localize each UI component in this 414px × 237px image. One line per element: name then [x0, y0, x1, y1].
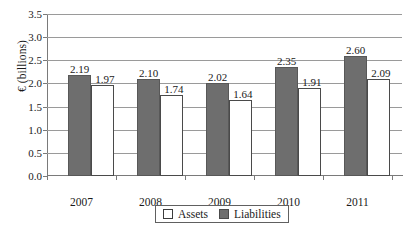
- bar-liabilities-2011[interactable]: 2.60: [344, 56, 367, 176]
- bar-liabilities-2009[interactable]: 2.02: [206, 83, 229, 177]
- bar-label: 1.64: [233, 89, 252, 100]
- bar-label: 2.19: [70, 64, 89, 75]
- bar-label: 2.09: [371, 68, 390, 79]
- y-tick-label: 2.0: [28, 77, 42, 89]
- bar-assets-2009[interactable]: 1.64: [229, 100, 252, 176]
- bar-assets-2011[interactable]: 2.09: [367, 79, 390, 176]
- bar-label: 2.35: [277, 56, 296, 67]
- legend-item-liabilities[interactable]: Liabilities: [219, 208, 281, 220]
- x-tick-label-2007: 2007: [70, 196, 93, 208]
- bar-label: 1.97: [95, 74, 114, 85]
- x-tick-mark: [392, 176, 393, 180]
- y-tick-label: 0.0: [28, 170, 42, 182]
- y-tick-label: 1.0: [28, 123, 42, 135]
- x-tick-mark: [323, 176, 324, 180]
- bar-label: 1.91: [302, 77, 321, 88]
- x-tick-mark: [185, 176, 186, 180]
- gray-square-icon: [219, 209, 229, 219]
- bar-groups: 2.19 1.97 2.10 1.74 2.02 1.64: [47, 14, 402, 176]
- plot-area: 3.5 3.0 2.5 2.0 1.5 1.0 0.5 0.0: [47, 14, 402, 176]
- y-tick-label: 3.5: [28, 8, 42, 20]
- legend-label-liabilities: Liabilities: [234, 208, 281, 220]
- bar-assets-2007[interactable]: 1.97: [91, 85, 114, 176]
- bar-assets-2008[interactable]: 1.74: [160, 95, 183, 176]
- chart-legend: Assets Liabilities: [155, 205, 289, 223]
- x-tick-label-2011: 2011: [346, 196, 369, 208]
- bar-assets-2010[interactable]: 1.91: [298, 88, 321, 176]
- bar-liabilities-2010[interactable]: 2.35: [275, 67, 298, 176]
- bar-label: 2.02: [208, 72, 227, 83]
- white-square-icon: [163, 209, 173, 219]
- x-tick-mark: [254, 176, 255, 180]
- x-tick-mark: [116, 176, 117, 180]
- bar-label: 2.10: [139, 68, 158, 79]
- bar-liabilities-2007[interactable]: 2.19: [68, 75, 91, 176]
- legend-label-assets: Assets: [178, 208, 208, 220]
- y-axis-label: € (billions): [16, 6, 28, 126]
- x-tick-mark: [47, 176, 48, 180]
- bar-chart: € (billions) 3.5 3.0 2.5 2.0 1.5 1.0: [0, 0, 414, 237]
- y-tick-label: 3.0: [28, 31, 42, 43]
- y-tick-label: 2.5: [28, 54, 42, 66]
- legend-item-assets[interactable]: Assets: [163, 208, 208, 220]
- bar-label: 1.74: [164, 84, 183, 95]
- bar-liabilities-2008[interactable]: 2.10: [137, 79, 160, 176]
- y-tick-label: 1.5: [28, 100, 42, 112]
- bar-label: 2.60: [346, 45, 365, 56]
- gridline-0-0: 0.0: [47, 176, 402, 177]
- y-tick-label: 0.5: [28, 147, 42, 159]
